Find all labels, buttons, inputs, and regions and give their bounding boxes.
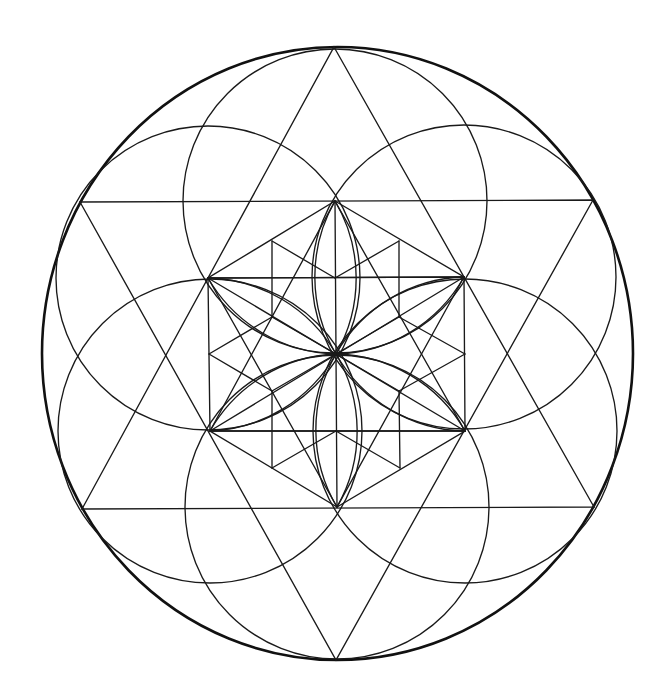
cube-edge-fh bbox=[209, 354, 272, 391]
cube-edge-kj bbox=[272, 431, 336, 468]
inner-hexagram-up bbox=[210, 201, 465, 431]
cube-edge-il bbox=[399, 391, 400, 468]
cube-edge-gd bbox=[399, 317, 465, 354]
cube-edge-lj bbox=[336, 431, 400, 468]
mandala-svg bbox=[0, 0, 671, 700]
mandala-figure: Sacred geometry mandala: Star of David w… bbox=[0, 0, 671, 700]
cube-edge-be bbox=[335, 241, 399, 278]
cube-edge-ae bbox=[272, 241, 335, 278]
